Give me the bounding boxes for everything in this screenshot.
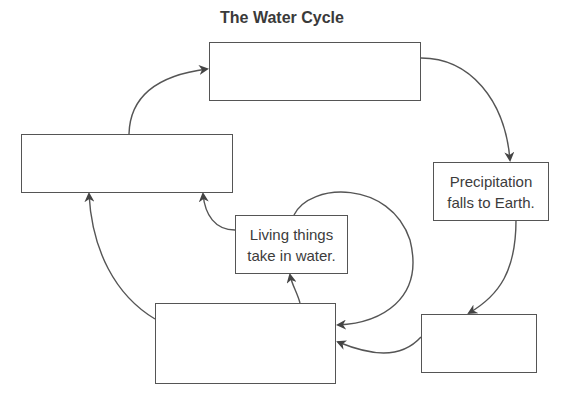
living-line1: Living things	[250, 224, 333, 245]
box-bottom-center-empty[interactable]	[155, 303, 336, 384]
box-top-empty[interactable]	[209, 42, 421, 101]
box-left-empty[interactable]	[21, 134, 233, 193]
box-bottom-right-empty[interactable]	[421, 314, 537, 373]
precipitation-line2: falls to Earth.	[447, 192, 535, 213]
arrow-bottom-center-to-living	[290, 275, 300, 303]
arrow-precipitation-to-bottom-right	[469, 220, 516, 313]
arrow-living-to-left	[203, 194, 235, 230]
arrow-bottom-right-to-bottom-center	[338, 337, 421, 353]
living-line2: take in water.	[247, 245, 335, 266]
precipitation-line1: Precipitation	[450, 171, 533, 192]
arrow-top-to-precipitation	[421, 58, 510, 160]
arrow-bottom-center-to-left	[89, 194, 155, 319]
box-precipitation[interactable]: Precipitation falls to Earth.	[433, 162, 549, 221]
arrow-left-to-top	[129, 69, 207, 134]
box-living-things[interactable]: Living things take in water.	[235, 215, 348, 274]
